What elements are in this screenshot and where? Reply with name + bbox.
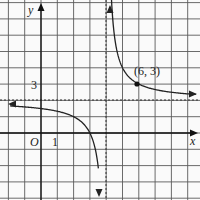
y-tick-3-label: 3	[31, 78, 37, 92]
x-tick-1-label: 1	[52, 135, 58, 149]
origin-label: O	[30, 135, 39, 149]
y-axis-label: y	[27, 3, 34, 17]
point-label: (6, 3)	[134, 64, 160, 78]
x-axis-label: x	[189, 134, 196, 148]
point-6-3	[134, 81, 139, 86]
graph: y x O 1 3 (6, 3)	[0, 0, 200, 200]
